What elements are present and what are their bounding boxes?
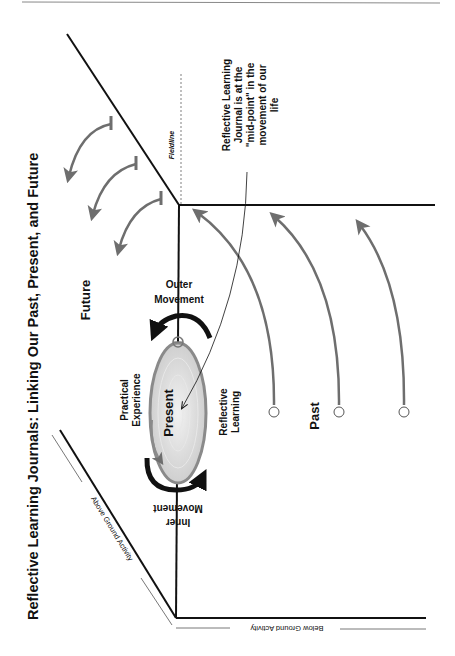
label-outer-movement: Movement (154, 294, 204, 305)
page-top-rule (22, 2, 440, 3)
label-present: Present (161, 388, 176, 436)
label-above-ground: Above Ground Activity (89, 495, 135, 563)
label-experience: Experience (131, 373, 142, 427)
label-below-ground: Below Ground Activity (250, 624, 323, 633)
diagram-title: Reflective Learning Journals: Linking Ou… (25, 153, 41, 620)
annotation-text: Reflective Learning Journal is at the "m… (221, 59, 280, 151)
label-inner-movement: Movement (153, 503, 203, 514)
label-fieldline: Fieldline (168, 131, 175, 160)
diagram-canvas: Reflective Learning Journals: Linking Ou… (0, 0, 455, 656)
annotation-line-2: Journal is at the (233, 66, 244, 143)
annotation-line-4: movement of our (257, 64, 268, 145)
present-ellipse (150, 337, 206, 483)
label-practical: Practical (119, 379, 130, 421)
label-future: Future (78, 280, 93, 320)
outer-movement-arrow (155, 315, 210, 338)
future-arrows (69, 116, 161, 249)
past-arrows (198, 213, 409, 417)
label-inner: Inner (166, 517, 191, 528)
label-learning: Learning (230, 391, 241, 433)
annotation-line-5: life (269, 97, 280, 112)
label-reflective: Reflective (218, 388, 229, 436)
label-past: Past (307, 402, 322, 430)
label-outer: Outer (166, 279, 193, 290)
annotation-line-3: "mid-point" in the (245, 62, 256, 147)
annotation-line-1: Reflective Learning (221, 59, 232, 151)
